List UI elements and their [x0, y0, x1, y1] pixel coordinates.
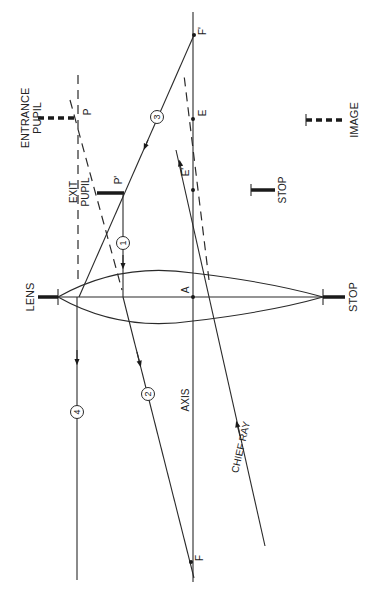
label-e-prime: E'	[180, 168, 191, 177]
label-f-prime: F'	[197, 27, 208, 35]
chief-ray-line	[176, 150, 265, 546]
label-e: E	[197, 109, 208, 116]
label-stop-lens: STOP	[347, 282, 359, 312]
point-f	[189, 560, 193, 564]
label-entrance-pupil-line1: ENTRANCE	[19, 88, 31, 149]
ray-2-line	[123, 297, 194, 578]
point-f-prime	[192, 33, 196, 37]
label-image: IMAGE	[348, 102, 360, 137]
ray-2-badge: 2	[142, 388, 155, 401]
point-e	[191, 117, 195, 121]
point-a	[191, 295, 195, 299]
svg-text:4: 4	[72, 409, 82, 414]
ray-1-badge: 1	[117, 237, 130, 250]
label-stop-small: STOP	[277, 176, 288, 203]
label-exit-pupil-line2: PUPIL	[80, 177, 91, 206]
label-lens: LENS	[24, 283, 36, 312]
label-f: F	[194, 555, 205, 561]
svg-text:3: 3	[152, 114, 162, 119]
label-exit-pupil-line1: EXIT	[68, 181, 79, 203]
label-chief-ray: CHIEF RAY	[229, 420, 252, 474]
optics-diagram: 1 2 3 4 ENTRANCE PUPIL EXIT PUPIL LENS S…	[0, 0, 367, 596]
chief-ray-virtual-extension	[184, 75, 209, 280]
label-entrance-pupil-line2: PUPIL	[31, 102, 43, 134]
label-p-prime: P'	[113, 176, 124, 185]
ray-4-badge: 4	[71, 406, 84, 419]
label-p: P	[82, 108, 93, 115]
ray-2-arrow	[137, 352, 140, 364]
svg-text:1: 1	[118, 240, 128, 245]
point-e-prime	[191, 188, 195, 192]
ray-3-arrow	[145, 140, 148, 147]
ray-3-badge: 3	[151, 111, 164, 124]
svg-text:2: 2	[143, 391, 153, 396]
label-a: A	[180, 286, 191, 293]
ray-3-line	[79, 35, 194, 297]
label-axis: AXIS	[180, 388, 191, 411]
